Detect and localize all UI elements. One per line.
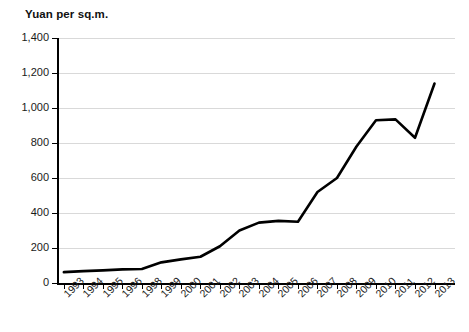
gridline: [58, 108, 455, 109]
y-axis-tick-label: 200: [0, 241, 49, 253]
y-axis-tick: [52, 283, 58, 284]
gridline: [58, 178, 455, 179]
y-axis-tick: [52, 38, 58, 39]
gridline: [58, 73, 455, 74]
y-axis-tick: [52, 178, 58, 179]
y-axis-tick-label: 600: [0, 171, 49, 183]
gridline: [58, 248, 455, 249]
y-axis-unit-title: Yuan per sq.m.: [25, 8, 108, 20]
y-axis-tick-label: 1,200: [0, 66, 49, 78]
y-axis-tick-label: 400: [0, 206, 49, 218]
gridline: [58, 143, 455, 144]
y-axis-tick-label: 1,400: [0, 31, 49, 43]
y-axis-tick-label: 0: [0, 276, 49, 288]
gridline: [58, 213, 455, 214]
plot-area: [58, 38, 455, 283]
y-axis-tick: [52, 248, 58, 249]
y-axis-tick: [52, 213, 58, 214]
y-axis-tick-label: 800: [0, 136, 49, 148]
y-axis-tick: [52, 73, 58, 74]
y-axis-tick: [52, 108, 58, 109]
y-axis-tick-label: 1,000: [0, 101, 49, 113]
line-chart-figure: Yuan per sq.m. 1,4001,2001,0008006004002…: [0, 0, 469, 332]
y-axis-tick: [52, 143, 58, 144]
gridline: [58, 38, 455, 39]
